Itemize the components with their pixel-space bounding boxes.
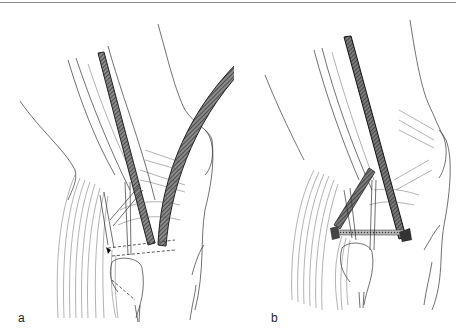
graft (334, 230, 404, 235)
panel-a: a (0, 0, 234, 334)
knee-illustration-b (234, 0, 468, 334)
panel-label-b: b (271, 311, 278, 325)
panel-b: b (234, 0, 468, 334)
panel-label-a: a (18, 311, 25, 325)
knee-illustration-a (0, 0, 234, 334)
